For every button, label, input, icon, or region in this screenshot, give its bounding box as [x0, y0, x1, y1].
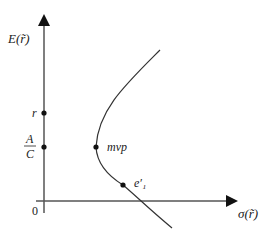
- mvp-point: [93, 144, 98, 149]
- a-over-c-point: [41, 144, 46, 149]
- r-label: r: [32, 106, 37, 120]
- mean-variance-diagram: E(r̃) σ(r̃) 0 r A C mvp e′₁: [0, 0, 275, 235]
- c-label: C: [26, 147, 35, 161]
- r-point: [41, 110, 46, 115]
- x-axis-label: σ(r̃): [238, 206, 258, 221]
- a-label: A: [25, 132, 34, 146]
- mvp-label: mvp: [107, 140, 127, 154]
- e1-label: e′₁: [134, 176, 146, 190]
- y-axis-label: E(r̃): [7, 31, 30, 46]
- e1-point: [120, 182, 125, 187]
- origin-label: 0: [32, 204, 38, 218]
